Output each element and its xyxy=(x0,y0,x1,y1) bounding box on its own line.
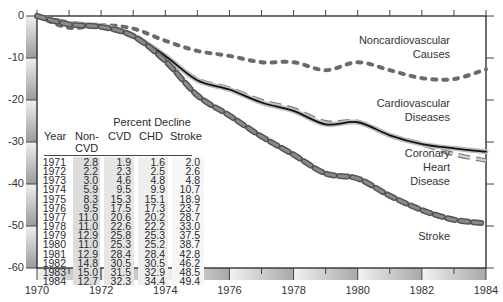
y-tick-label: -20 xyxy=(0,93,24,105)
x-tick-label: 1976 xyxy=(209,284,249,296)
x-tick-label: 1984 xyxy=(466,284,503,296)
table-cell: 12.7 xyxy=(78,277,98,286)
header-chd: CHD xyxy=(139,130,163,142)
label-chd: Coronary Heart Disease xyxy=(330,146,450,188)
table-cell: 34.4 xyxy=(145,277,165,286)
label-stroke: Stroke xyxy=(330,229,450,243)
table-cell: 1984 xyxy=(43,277,66,286)
label-noncvd: Noncardiovascular Causes xyxy=(330,33,450,61)
table-cell: 32.3 xyxy=(111,277,131,286)
table-cell: 49.4 xyxy=(180,277,200,286)
header-stroke: Stroke xyxy=(170,130,202,142)
y-tick-label: -60 xyxy=(0,261,24,273)
table-title: Percent Decline xyxy=(82,116,222,128)
x-tick-label: 1982 xyxy=(402,284,442,296)
x-tick-label: 1978 xyxy=(274,284,314,296)
y-tick-label: -10 xyxy=(0,51,24,63)
y-tick-label: -40 xyxy=(0,177,24,189)
header-year: Year xyxy=(44,130,66,142)
label-cvd: Cardiovascular Diseases xyxy=(330,96,450,124)
y-tick-label: 0 xyxy=(0,9,24,21)
header-noncvd: Non- CVD xyxy=(75,130,99,154)
x-tick-label: 1980 xyxy=(338,284,378,296)
y-tick-label: -30 xyxy=(0,135,24,147)
table-row: 198412.732.334.449.4 xyxy=(44,277,204,286)
y-tick-label: -50 xyxy=(0,219,24,231)
header-cvd: CVD xyxy=(108,130,131,142)
